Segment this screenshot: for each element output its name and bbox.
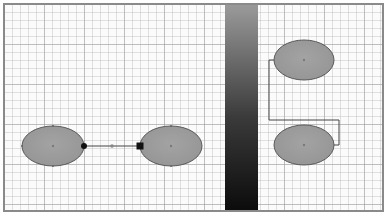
edge-end-square-marker-icon[interactable] — [137, 143, 144, 150]
right-diagram — [269, 40, 339, 165]
node-handle-icon[interactable] — [52, 165, 54, 167]
node-center-dot-icon — [303, 59, 305, 61]
node-handle-icon[interactable] — [21, 145, 23, 147]
node-center-dot-icon — [303, 144, 305, 146]
diagram-overlay — [0, 0, 385, 214]
node-handle-icon[interactable] — [52, 125, 54, 127]
diagram-canvas — [0, 0, 385, 214]
node-center-dot-icon — [170, 145, 172, 147]
edge-midpoint-marker-icon[interactable] — [110, 144, 114, 148]
node-center-dot-icon — [52, 145, 54, 147]
left-diagram — [21, 125, 202, 167]
node-handle-icon[interactable] — [170, 165, 172, 167]
node-handle-icon[interactable] — [170, 125, 172, 127]
edge-start-circle-marker-icon[interactable] — [81, 143, 87, 149]
